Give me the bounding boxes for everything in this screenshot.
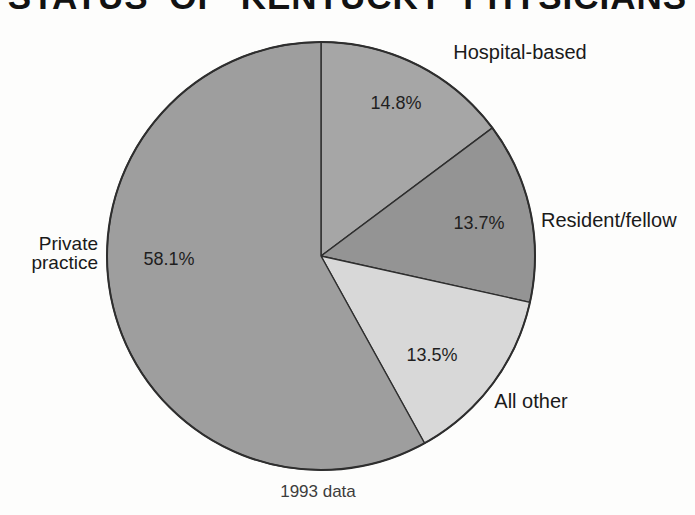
slice-value-resident-fellow: 13.7% <box>441 213 517 234</box>
chart-caption: 1993 data <box>245 482 391 502</box>
slice-label-all-other: All other <box>468 390 594 413</box>
pie-chart-figure: STATUS OF KENTUCKY PHYSICIANS Hospital-b… <box>0 0 695 515</box>
slice-label-resident-fellow: Resident/fellow <box>541 209 677 232</box>
slice-label-private-practice: Private practice <box>16 234 98 272</box>
slice-label-hospital-based: Hospital-based <box>428 41 612 64</box>
slice-value-all-other: 13.5% <box>394 345 470 366</box>
slice-value-private-practice: 58.1% <box>131 249 207 270</box>
slice-value-hospital-based: 14.8% <box>358 93 434 114</box>
pie-chart <box>0 0 695 515</box>
